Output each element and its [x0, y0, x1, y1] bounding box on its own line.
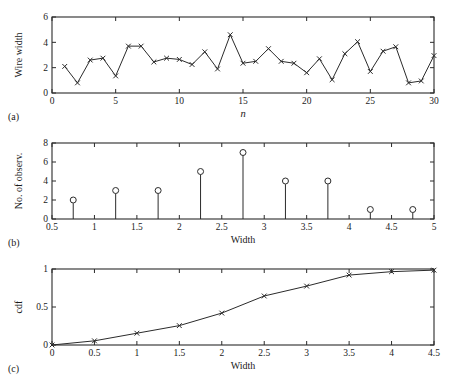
data-point-marker — [266, 46, 271, 51]
y-tick-label: 4 — [43, 38, 48, 48]
y-tick-label: 6 — [43, 12, 48, 22]
x-axis-label: n — [240, 108, 245, 119]
data-point-marker — [317, 56, 322, 61]
panel-tag: (b) — [8, 237, 20, 249]
plot-frame — [52, 17, 434, 93]
panel-a-svg: 0510152025300246nWire width(a) — [0, 0, 450, 126]
stem-head-marker — [240, 150, 246, 156]
x-tick-label: 10 — [175, 96, 185, 106]
data-point-marker — [393, 44, 398, 49]
stem-head-marker — [325, 178, 331, 184]
y-axis-label: Wire width — [13, 33, 24, 78]
x-tick-label: 1.5 — [131, 222, 143, 232]
series-wire-width — [65, 35, 434, 83]
x-axis-label: Width — [231, 360, 256, 371]
panel-c-cdf: 00.511.522.533.544.500.51Widthcdf(c) — [0, 252, 450, 379]
y-tick-label: 6 — [43, 157, 48, 167]
y-tick-label: 0 — [43, 340, 48, 350]
data-point-marker — [368, 69, 373, 74]
data-point-marker — [75, 80, 80, 85]
y-tick-label: 2 — [43, 195, 48, 205]
data-point-marker — [330, 77, 335, 82]
stem-head-marker — [155, 188, 161, 194]
panel-tag: (c) — [8, 363, 19, 375]
data-point-marker — [190, 62, 195, 67]
x-tick-label: 2.5 — [258, 348, 270, 358]
x-tick-label: 25 — [366, 96, 376, 106]
stem-head-marker — [367, 207, 373, 213]
y-tick-label: 0 — [43, 88, 48, 98]
panel-c-svg: 00.511.522.533.544.500.51Widthcdf(c) — [0, 252, 450, 379]
data-point-marker — [228, 32, 233, 37]
data-point-marker — [202, 49, 207, 54]
x-tick-label: 1 — [135, 348, 140, 358]
panel-b-histogram-stem: 0.511.522.533.544.5502468WidthNo. of obs… — [0, 126, 450, 252]
y-tick-label: 4 — [43, 176, 48, 186]
stem-head-marker — [282, 178, 288, 184]
x-tick-label: 5 — [113, 96, 118, 106]
x-tick-label: 2 — [177, 222, 182, 232]
x-tick-label: 2 — [219, 348, 224, 358]
x-tick-label: 0.5 — [89, 348, 101, 358]
x-tick-label: 30 — [429, 96, 439, 106]
x-axis-label: Width — [231, 234, 256, 245]
x-tick-label: 3.5 — [301, 222, 313, 232]
x-tick-label: 4 — [347, 222, 352, 232]
plot-frame — [52, 269, 434, 345]
stem-head-marker — [198, 169, 204, 175]
x-tick-label: 3 — [304, 348, 309, 358]
y-axis-label: No. of observ. — [13, 153, 24, 210]
x-tick-label: 1.5 — [173, 348, 185, 358]
x-tick-label: 20 — [302, 96, 312, 106]
panel-a-time-series: 0510152025300246nWire width(a) — [0, 0, 450, 126]
data-point-marker — [342, 51, 347, 56]
data-point-marker — [355, 39, 360, 44]
x-tick-label: 2.5 — [216, 222, 228, 232]
y-tick-label: 0 — [43, 214, 48, 224]
x-tick-label: 3 — [262, 222, 267, 232]
data-point-marker — [304, 70, 309, 75]
x-tick-label: 4.5 — [386, 222, 398, 232]
y-axis-label: cdf — [13, 300, 24, 313]
data-point-marker — [113, 74, 118, 79]
y-tick-label: 8 — [43, 138, 48, 148]
data-point-marker — [62, 64, 67, 69]
x-tick-label: 4 — [389, 348, 394, 358]
x-tick-label: 0 — [50, 348, 55, 358]
panel-b-svg: 0.511.522.533.544.5502468WidthNo. of obs… — [0, 126, 450, 252]
x-tick-label: 1 — [92, 222, 97, 232]
figure-wire-width-statistics: 0510152025300246nWire width(a) 0.511.522… — [0, 0, 450, 379]
stem-head-marker — [410, 207, 416, 213]
x-tick-label: 4.5 — [428, 348, 440, 358]
y-tick-label: 2 — [43, 63, 48, 73]
x-tick-label: 5 — [432, 222, 437, 232]
stem-head-marker — [113, 188, 119, 194]
y-tick-label: 1 — [43, 264, 48, 274]
panel-tag: (a) — [8, 111, 19, 123]
x-tick-label: 0 — [50, 96, 55, 106]
x-tick-label: 3.5 — [343, 348, 355, 358]
y-tick-label: 0.5 — [36, 302, 48, 312]
x-tick-label: 15 — [238, 96, 248, 106]
data-point-marker — [381, 49, 386, 54]
stem-head-marker — [70, 197, 76, 203]
data-point-marker — [215, 67, 220, 72]
series-cdf — [52, 270, 434, 345]
